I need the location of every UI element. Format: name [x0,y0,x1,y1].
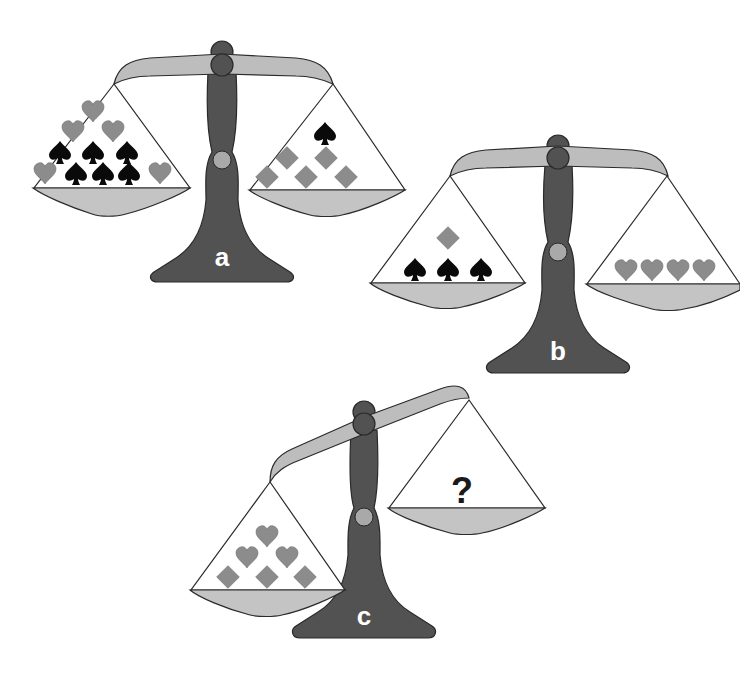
scale-b-knuckle [549,243,567,261]
scale-a-knuckle [213,151,231,169]
scale-b-pivot [547,147,569,169]
unknown-weight-question-mark: ? [451,470,473,511]
scale-a-pivot [211,54,233,76]
scale-b: b [370,135,740,373]
scale-a-right-pan [249,84,405,217]
scale-a-label: a [215,242,230,272]
balance-puzzle-canvas: a [0,0,740,680]
scale-c-right-pan: ? [388,400,545,535]
scale-c-label: c [357,601,371,631]
scale-b-label: b [550,336,566,366]
scale-a: a [33,41,405,282]
scale-c-knuckle [355,508,373,526]
scale-b-right-pan [586,176,740,311]
scale-a-left-pan [33,84,190,216]
scale-c-pivot [353,413,375,435]
scale-c: c ? [190,386,545,638]
scale-c-left-pan [190,482,345,617]
